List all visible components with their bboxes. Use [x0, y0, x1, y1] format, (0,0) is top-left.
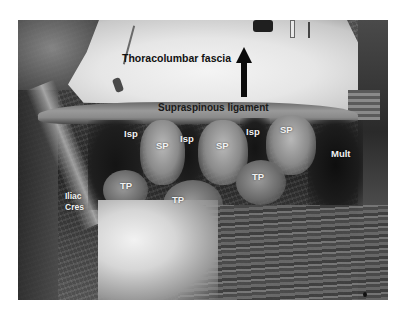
label-sp: SP — [280, 125, 293, 135]
label-sp: SP — [216, 141, 229, 151]
label-crest: Cres — [65, 203, 84, 212]
speck — [363, 292, 367, 297]
surgical-clamp — [253, 20, 273, 32]
lower-fascia — [98, 200, 218, 300]
label-isp: Isp — [246, 127, 260, 137]
thoracolumbar-fascia-region — [68, 20, 378, 112]
label-supraspinous-ligament: Supraspinous ligament — [158, 103, 269, 113]
label-mult: Mult — [331, 149, 351, 159]
arrow-shaft — [241, 62, 247, 97]
surgical-pin — [290, 20, 295, 38]
label-tp: TP — [120, 181, 132, 191]
transverse-process — [236, 160, 286, 205]
arrow-head — [236, 47, 252, 63]
label-sp: SP — [156, 141, 169, 151]
arrow-up-icon — [236, 47, 252, 97]
label-thoracolumbar-fascia: Thoracolumbar fascia — [122, 53, 231, 64]
spinous-process — [140, 120, 185, 185]
multifidus-region — [308, 120, 363, 210]
surgical-pin — [308, 22, 310, 38]
label-iliac: Iliac — [65, 192, 82, 201]
label-tp: TP — [252, 172, 264, 182]
dissection-photo: Thoracolumbar fascia Supraspinous ligame… — [18, 20, 388, 300]
label-isp: Isp — [124, 129, 138, 139]
label-tp: TP — [172, 195, 184, 205]
label-isp: Isp — [180, 134, 194, 144]
